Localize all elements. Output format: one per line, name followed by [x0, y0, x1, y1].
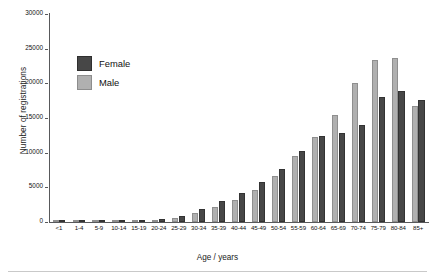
bar-group: [328, 14, 348, 222]
bar-male: [412, 106, 418, 222]
bar-group: [69, 14, 89, 222]
y-axis-tick-label: 20000: [25, 78, 43, 85]
bar-male: [272, 176, 278, 222]
x-axis-line: [49, 222, 429, 223]
bar-female: [359, 125, 365, 222]
x-axis-tick-label: 85+: [408, 224, 428, 231]
legend-label-male: Male: [99, 77, 119, 88]
bar-male: [172, 218, 178, 222]
bar-male: [392, 58, 398, 222]
bar-group: [308, 14, 328, 222]
bar-male: [332, 115, 338, 222]
bar-group: [368, 14, 388, 222]
bar-chart: Number of registrations 0500010000150002…: [0, 0, 435, 279]
bar-female: [239, 193, 245, 222]
y-axis-tick-mark: [45, 83, 48, 84]
bar-group: [209, 14, 229, 222]
bar-group: [388, 14, 408, 222]
x-axis-tick-labels: <11-45-910-1415-1920-2425-2930-3435-3940…: [49, 224, 428, 231]
x-axis-tick-label: 50-54: [268, 224, 288, 231]
bar-female: [79, 220, 85, 222]
bar-group: [89, 14, 109, 222]
x-axis-tick-label: 30-34: [189, 224, 209, 231]
bar-group: [169, 14, 189, 222]
bar-female: [299, 151, 305, 222]
y-axis-tick-mark: [45, 49, 48, 50]
bar-group: [189, 14, 209, 222]
bar-male: [132, 220, 138, 222]
y-axis-tick-label: 10000: [25, 148, 43, 155]
x-axis-tick-label: 10-14: [109, 224, 129, 231]
y-axis-tick-label: 30000: [25, 9, 43, 16]
y-axis-tick-label: 5000: [29, 182, 43, 189]
y-axis-tick-mark: [45, 153, 48, 154]
bar-female: [259, 182, 265, 222]
x-axis-tick-label: 75-79: [368, 224, 388, 231]
x-axis-tick-label: 25-29: [169, 224, 189, 231]
legend-item-male: Male: [77, 73, 130, 92]
bar-male: [352, 83, 358, 222]
x-axis-tick-label: 40-44: [229, 224, 249, 231]
bar-female: [379, 97, 385, 222]
legend-item-female: Female: [77, 54, 130, 73]
chart-legend: Female Male: [77, 54, 130, 92]
bar-male: [292, 156, 298, 222]
x-axis-tick-label: 35-39: [209, 224, 229, 231]
bar-female: [59, 220, 65, 222]
bar-female: [159, 219, 165, 222]
y-axis-tick-mark: [45, 222, 48, 223]
bar-female: [319, 136, 325, 222]
bar-female: [279, 169, 285, 222]
bar-male: [53, 220, 59, 222]
bar-female: [139, 220, 145, 222]
x-axis-tick-label: <1: [49, 224, 69, 231]
bar-male: [312, 137, 318, 222]
bar-group: [288, 14, 308, 222]
x-axis-tick-label: 1-4: [69, 224, 89, 231]
y-axis-title: Number of registrations: [19, 26, 28, 196]
legend-swatch-female: [77, 56, 92, 71]
bar-female: [179, 216, 185, 222]
bar-male: [232, 200, 238, 222]
bar-group: [348, 14, 368, 222]
bar-group: [149, 14, 169, 222]
bar-female: [219, 201, 225, 222]
bar-group: [49, 14, 69, 222]
x-axis-title: Age / years: [0, 253, 435, 262]
bar-group: [229, 14, 249, 222]
x-axis-tick-label: 65-69: [328, 224, 348, 231]
bar-female: [418, 100, 424, 222]
y-axis-tick-label: 15000: [25, 113, 43, 120]
footer-divider: [8, 271, 427, 272]
bar-group: [268, 14, 288, 222]
bar-group: [129, 14, 149, 222]
bar-group: [408, 14, 428, 222]
bar-groups: [49, 14, 428, 222]
bar-male: [112, 220, 118, 222]
bar-male: [92, 220, 98, 222]
y-axis-tick-label: 25000: [25, 44, 43, 51]
bar-male: [252, 190, 258, 222]
x-axis-tick-label: 15-19: [129, 224, 149, 231]
legend-label-female: Female: [99, 58, 130, 69]
x-axis-tick-label: 45-49: [249, 224, 269, 231]
bar-female: [199, 209, 205, 222]
bar-female: [99, 220, 105, 222]
bar-male: [192, 213, 198, 222]
x-axis-tick-label: 5-9: [89, 224, 109, 231]
y-axis-tick-label: 0: [39, 217, 43, 224]
y-axis-tick-mark: [45, 187, 48, 188]
bar-group: [109, 14, 129, 222]
y-axis-tick-mark: [45, 118, 48, 119]
x-axis-tick-label: 20-24: [149, 224, 169, 231]
y-axis-tick-mark: [45, 14, 48, 15]
bar-male: [73, 220, 79, 222]
legend-swatch-male: [77, 75, 92, 90]
bar-male: [152, 220, 158, 222]
bar-male: [372, 60, 378, 222]
bar-male: [212, 207, 218, 222]
bar-female: [119, 220, 125, 222]
bar-group: [249, 14, 269, 222]
bar-female: [339, 133, 345, 222]
x-axis-tick-label: 60-64: [308, 224, 328, 231]
